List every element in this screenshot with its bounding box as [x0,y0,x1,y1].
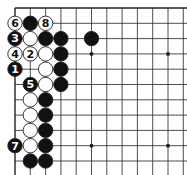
move-number: 5 [26,78,34,91]
black-stone: 5 [23,77,37,91]
black-stone [38,123,52,137]
white-stone [23,139,37,153]
move-number: 3 [11,32,19,45]
black-stone [23,16,37,30]
black-stone: 3 [8,31,22,45]
black-stone [54,62,68,76]
star-point [166,52,170,56]
black-stone [38,108,52,122]
move-number: 2 [26,48,34,61]
white-stone [23,93,37,107]
move-number: 7 [11,140,19,153]
move-number: 4 [11,48,19,61]
star-point [90,144,94,148]
white-stone [23,123,37,137]
black-stone [54,77,68,91]
white-stone: 4 [8,47,22,61]
black-stone: 1 [8,62,22,76]
move-number: 1 [11,63,19,76]
white-stone [23,31,37,45]
star-point [90,52,94,56]
white-stone: 6 [8,16,22,30]
star-point [166,144,170,148]
white-stone: 2 [23,47,37,61]
black-stone [54,31,68,45]
white-stone [38,47,52,61]
black-stone [38,139,52,153]
black-stone [38,31,52,45]
white-stone [38,62,52,76]
black-stone [54,47,68,61]
go-board: 68342157 [0,0,187,175]
white-stone [23,108,37,122]
black-stone [38,93,52,107]
move-number: 6 [11,17,19,30]
white-stone: 8 [38,16,52,30]
move-number: 8 [42,17,50,30]
black-stone [38,154,52,168]
white-stone [38,77,52,91]
black-stone [23,154,37,168]
black-stone [84,31,98,45]
black-stone: 7 [8,139,22,153]
